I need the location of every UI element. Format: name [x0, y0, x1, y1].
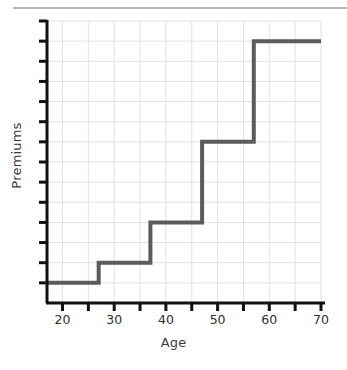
grid-lines	[47, 21, 321, 303]
x-axis-tick-label: 30	[99, 312, 129, 327]
x-axis-title: Age	[0, 335, 347, 350]
premiums-by-age-chart: Premiums Age 203040506070	[0, 0, 347, 370]
x-axis-tick-label: 60	[254, 312, 284, 327]
x-axis-tick-label: 70	[306, 312, 336, 327]
y-axis-title: Premiums	[9, 106, 24, 206]
x-axis-tick-label: 40	[151, 312, 181, 327]
x-axis-tick-label: 20	[48, 312, 78, 327]
x-axis-tick-label: 50	[203, 312, 233, 327]
